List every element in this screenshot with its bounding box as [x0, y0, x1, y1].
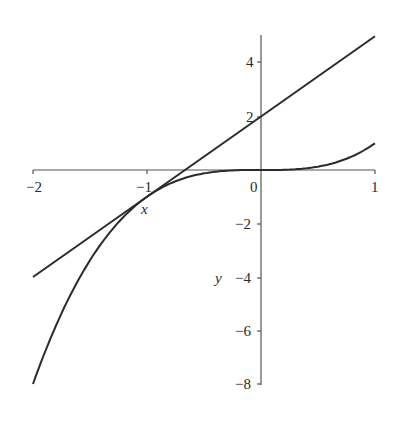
x-tick-label: 0 — [250, 179, 258, 195]
tangent-line — [33, 36, 375, 277]
x-tick-label: −2 — [26, 179, 42, 195]
cubic-curve — [33, 143, 375, 384]
y-tick-label: 4 — [246, 54, 254, 70]
y-tick-label: −8 — [235, 376, 251, 392]
y-tick-label: −2 — [235, 216, 251, 232]
y-tick-label: −4 — [235, 270, 251, 286]
x-tick-label: −1 — [136, 179, 152, 195]
y-axis-label: y — [213, 270, 222, 286]
chart-canvas: −2 −1 0 1 4 2 −2 −4 −6 −8 x y — [0, 0, 398, 425]
y-tick-label: 2 — [246, 109, 254, 125]
x-axis-label: x — [140, 201, 148, 217]
y-tick-label: −6 — [235, 323, 251, 339]
x-tick-label: 1 — [371, 179, 379, 195]
